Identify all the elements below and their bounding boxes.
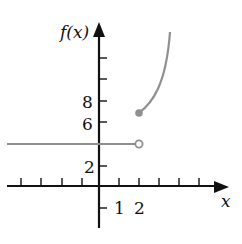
axes	[7, 36, 218, 228]
y-axis-arrow-icon	[93, 22, 105, 37]
increasing-curve	[139, 32, 170, 113]
y-axis-label: f(x)	[58, 22, 89, 42]
closed-dot-marker	[135, 109, 143, 117]
x-axis-label: x	[221, 191, 231, 211]
y-tick-label-8: 8	[82, 92, 93, 112]
y-tick-label-6: 6	[82, 114, 93, 134]
open-circle-marker	[135, 140, 142, 147]
piecewise-function-graph: f(x) x 8 6 2 1 2	[0, 0, 242, 244]
x-tick-label-1: 1	[114, 198, 125, 218]
x-tick-label-2: 2	[134, 198, 145, 218]
y-tick-label-2: 2	[84, 157, 95, 177]
x-ticks	[21, 178, 199, 186]
